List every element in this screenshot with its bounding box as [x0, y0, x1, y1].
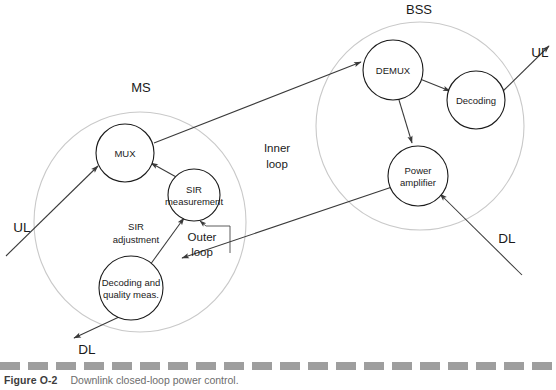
figure-caption-number: Figure O-2 — [4, 374, 58, 386]
outer-loop-label-line1: Outer — [188, 231, 217, 243]
node-demux[interactable]: DEMUX — [363, 40, 423, 100]
inner-loop-label-line2: loop — [266, 158, 288, 170]
outer-loop-label-line2: loop — [191, 246, 213, 258]
connection-decoding-quality-to-dl-output — [74, 317, 119, 338]
sir-measurement-label-line2: measurement — [165, 196, 223, 207]
figure-container: MUX SIR measurement Decoding and quality… — [0, 0, 556, 390]
sir-measurement-label-line1: SIR — [186, 184, 202, 195]
sir-adjustment-label-line2: adjustment — [113, 234, 160, 245]
decoding-label: Decoding — [456, 95, 496, 106]
power-control-diagram: MUX SIR measurement Decoding and quality… — [0, 0, 556, 390]
decoding-quality-meas-label-line2: quality meas. — [103, 289, 159, 300]
figure-caption: Figure O-2Downlink closed-loop power con… — [4, 374, 552, 388]
connection-demux-to-power-amplifier — [399, 100, 412, 143]
power-amplifier-label-line1: Power — [405, 165, 432, 176]
bss-group-label: BSS — [406, 2, 432, 17]
connection-demux-to-decoding — [420, 79, 450, 91]
ms-group-label: MS — [131, 80, 151, 95]
dl-right-label: DL — [498, 231, 516, 246]
mux-label: MUX — [114, 148, 136, 159]
demux-label: DEMUX — [376, 65, 411, 76]
node-decoding-quality-meas[interactable]: Decoding and quality meas. — [99, 256, 163, 320]
power-amplifier-label-line2: amplifier — [400, 177, 436, 188]
node-mux[interactable]: MUX — [96, 124, 154, 182]
figure-caption-text: Downlink closed-loop power control. — [71, 374, 239, 386]
connection-sir-measurement-to-mux — [151, 163, 178, 178]
inner-loop-label-line1: Inner — [264, 142, 290, 154]
caption-rule — [0, 362, 556, 370]
node-sir-measurement[interactable]: SIR measurement — [165, 169, 223, 221]
node-decoding[interactable]: Decoding — [447, 71, 505, 129]
dl-left-label: DL — [78, 342, 96, 357]
node-power-amplifier[interactable]: Power amplifier — [388, 146, 448, 206]
connection-mux-to-demux — [154, 62, 361, 143]
connection-ul-input-to-mux — [6, 166, 98, 256]
ul-left-label: UL — [13, 220, 31, 235]
decoding-quality-meas-label-line1: Decoding and — [102, 277, 161, 288]
ul-right-label: UL — [531, 45, 549, 60]
sir-adjustment-label-line1: SIR — [128, 221, 144, 232]
